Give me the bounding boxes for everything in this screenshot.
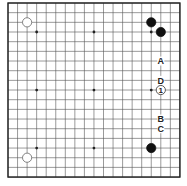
black-stone [147, 143, 156, 152]
star-point-icon [35, 147, 38, 150]
black-stone [156, 27, 165, 36]
white-stone [23, 18, 32, 27]
star-point-icon [93, 89, 96, 92]
star-point-icon [150, 31, 153, 34]
star-point-icon [35, 31, 38, 34]
star-point-icon [150, 89, 153, 92]
point-label: B [158, 114, 165, 124]
star-point-icon [35, 89, 38, 92]
white-stone [23, 153, 32, 162]
black-stone [147, 18, 156, 27]
point-label: D [158, 76, 165, 86]
point-label: C [158, 124, 165, 134]
star-point-icon [93, 147, 96, 150]
go-board-diagram: 1ADBC [0, 0, 187, 186]
move-number: 1 [159, 86, 164, 95]
star-point-icon [93, 31, 96, 34]
point-label: A [158, 56, 165, 66]
